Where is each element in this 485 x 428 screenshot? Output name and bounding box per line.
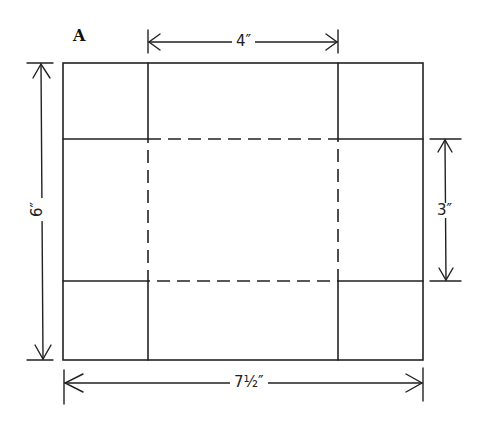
fold-rectangle [148, 139, 338, 281]
top-dimension-label: 4″ [232, 34, 255, 49]
left-dimension-label: 6″ [30, 198, 45, 221]
right-dimension-label: 3″ [433, 203, 456, 218]
figure-label: A [73, 26, 85, 45]
diagram: A 4″ 6″ 3″ 7½″ [0, 0, 485, 428]
bottom-dimension-label: 7½″ [230, 375, 268, 390]
box-template-drawing [0, 0, 485, 428]
outer-rectangle [63, 63, 423, 360]
